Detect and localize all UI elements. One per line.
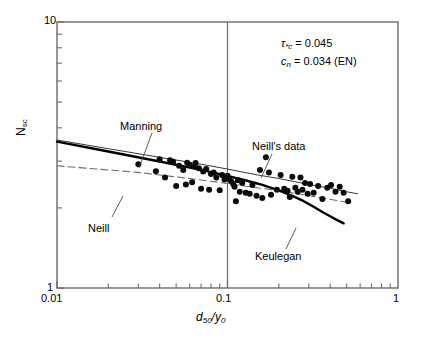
x-tick-label-mid: 0.1 <box>216 292 231 304</box>
annotation-cn: cn = 0.034 (EN) <box>281 54 357 72</box>
x-axis-title-divider: /y <box>212 310 221 324</box>
x-axis-title-sub-50: 50 <box>203 316 212 325</box>
chart-figure: 10 1 0.01 0.1 1 Nsc d50/y0 τ*c = 0.045 c… <box>0 0 421 338</box>
parameter-annotation: τ*c = 0.045 cn = 0.034 (EN) <box>281 36 357 72</box>
curve-label-neills-data: Neill's data <box>252 140 305 152</box>
curve-label-neill: Neill <box>88 222 109 234</box>
y-axis-title-main: N <box>14 127 28 136</box>
x-axis-title-d: d <box>196 310 203 324</box>
y-axis-ticks <box>57 22 64 288</box>
y-tick-label-max: 10 <box>44 14 56 26</box>
x-axis-ticks <box>57 281 390 288</box>
cn-value: = 0.034 (EN) <box>291 55 357 67</box>
curve-label-keulegan: Keulegan <box>255 250 302 262</box>
y-axis-title-sub: sc <box>20 119 29 127</box>
y-axis-title: Nsc <box>14 119 29 136</box>
plot-canvas <box>0 0 421 338</box>
annotation-tau: τ*c = 0.045 <box>281 36 357 54</box>
curve-label-manning: Manning <box>120 120 162 132</box>
x-tick-label-min: 0.01 <box>41 292 62 304</box>
tau-value: = 0.045 <box>292 37 332 49</box>
x-axis-title: d50/y0 <box>196 310 225 325</box>
x-axis-title-sub-0: 0 <box>221 316 225 325</box>
x-tick-label-max: 1 <box>393 292 399 304</box>
